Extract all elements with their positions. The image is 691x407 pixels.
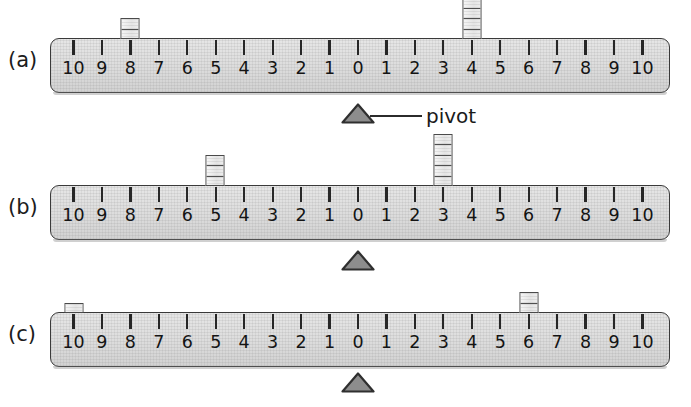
tick-mark [129,314,131,329]
scale-number: 3 [438,332,449,352]
weight-segment [521,304,538,314]
pivot-triangle [341,372,375,393]
tick-mark [215,314,217,329]
tick-mark [272,314,274,329]
scale-number: 2 [296,332,307,352]
tick-mark [499,314,501,329]
scale-number: 9 [608,332,619,352]
tick-mark [528,314,530,329]
tick-mark [72,314,74,329]
tick-mark [641,314,643,329]
tick-mark [300,314,302,329]
beam-row-c: (c)10987654321012345678910 [0,0,691,407]
scale-number: 10 [62,332,84,352]
scale-number: 5 [495,332,506,352]
tick-mark [186,314,188,329]
scale-number: 6 [182,332,193,352]
scale-number: 6 [523,332,534,352]
tick-mark [243,314,245,329]
tick-mark [584,314,586,329]
pivot-label: pivot [426,104,476,128]
tick-mark [158,314,160,329]
tick-mark [385,314,387,329]
tick-mark [101,314,103,329]
tick-mark [556,314,558,329]
scale-number: 9 [96,332,107,352]
scale-number: 7 [153,332,164,352]
tick-mark [442,314,444,329]
weight-block[interactable] [520,292,539,313]
scale-number: 5 [210,332,221,352]
weight-segment [521,293,538,304]
scale-number: 0 [352,332,363,352]
scale-number: 4 [466,332,477,352]
scale-number: 8 [125,332,136,352]
scale-number: 8 [580,332,591,352]
weight-block[interactable] [65,303,84,314]
tick-mark [357,314,359,329]
row-label: (c) [8,322,36,346]
scale-number: 3 [267,332,278,352]
weight-segment [66,304,83,314]
scale-number: 7 [552,332,563,352]
scale-number: 10 [631,332,653,352]
tick-mark [613,314,615,329]
tick-mark [414,314,416,329]
tick-mark [471,314,473,329]
scale-number: 4 [239,332,250,352]
scale-number: 1 [381,332,392,352]
pivot-leader-line [370,115,422,117]
scale-number: 1 [324,332,335,352]
tick-mark [328,314,330,329]
scale-number: 2 [409,332,420,352]
balance-beam-figure: (a)10987654321012345678910(b)10987654321… [0,0,691,407]
